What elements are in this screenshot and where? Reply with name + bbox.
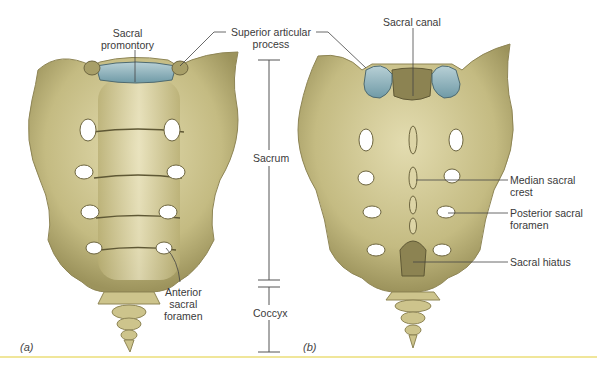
panel-label-b: (b) bbox=[303, 341, 316, 353]
panel-label-a: (a) bbox=[20, 341, 33, 353]
label-line: foramen bbox=[510, 219, 583, 231]
label-sacral-promontory: Sacral promontory bbox=[101, 27, 154, 51]
label-line: process bbox=[231, 38, 311, 50]
anterior-sacrum bbox=[28, 52, 238, 352]
posterior-sacrum bbox=[298, 44, 513, 348]
sacrum-illustration bbox=[0, 0, 597, 377]
label-line: Superior articular bbox=[231, 26, 311, 38]
label-sacral-hiatus: Sacral hiatus bbox=[510, 256, 571, 268]
label-line: Sacral bbox=[101, 27, 154, 39]
label-line: Median sacral bbox=[510, 174, 575, 186]
label-line: crest bbox=[510, 186, 575, 198]
label-line: promontory bbox=[101, 39, 154, 51]
label-median-sacral-crest: Median sacral crest bbox=[510, 174, 575, 198]
label-line: Anterior bbox=[164, 286, 203, 298]
label-coccyx: Coccyx bbox=[253, 307, 287, 319]
footer-rule bbox=[0, 356, 597, 358]
label-sacral-canal: Sacral canal bbox=[383, 16, 441, 28]
label-superior-articular-process: Superior articular process bbox=[231, 26, 311, 50]
label-line: sacral bbox=[164, 298, 203, 310]
label-line: Posterior sacral bbox=[510, 207, 583, 219]
label-anterior-sacral-foramen: Anterior sacral foramen bbox=[164, 286, 203, 322]
label-sacrum: Sacrum bbox=[253, 152, 289, 164]
label-posterior-sacral-foramen: Posterior sacral foramen bbox=[510, 207, 583, 231]
label-line: foramen bbox=[164, 310, 203, 322]
